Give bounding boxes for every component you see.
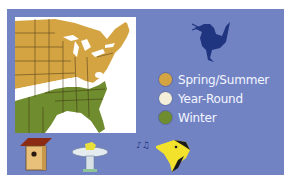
- legend-item-year-round: Year-Round: [158, 89, 269, 108]
- legend: Spring/Summer Year-Round Winter: [158, 70, 269, 127]
- legend-label: Spring/Summer: [178, 73, 269, 87]
- winter-swatch-icon: [158, 110, 173, 125]
- legend-label: Year-Round: [178, 92, 243, 106]
- birdbath-icon: [70, 136, 110, 178]
- year-round-swatch-icon: [158, 91, 173, 106]
- singing-bird-head-icon: ♪♫: [134, 134, 194, 178]
- legend-item-winter: Winter: [158, 108, 269, 127]
- svg-text:♪♫: ♪♫: [136, 140, 150, 150]
- us-east-map-graphic: [15, 17, 136, 133]
- birdhouse-icon: [18, 136, 52, 176]
- range-map: [15, 17, 136, 133]
- legend-item-spring-summer: Spring/Summer: [158, 70, 269, 89]
- spring-summer-swatch-icon: [158, 72, 173, 87]
- songbird-silhouette-icon: [190, 18, 232, 64]
- legend-label: Winter: [178, 111, 216, 125]
